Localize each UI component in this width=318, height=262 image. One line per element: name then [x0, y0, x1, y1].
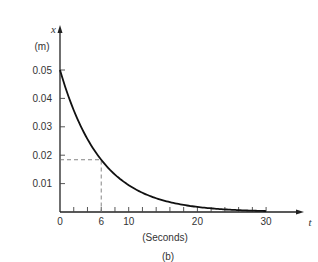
x-tick-label: 30 — [261, 216, 273, 227]
x-tick-label: 0 — [57, 216, 63, 227]
y-tick-label: 0.03 — [33, 121, 53, 132]
y-tick-label: 0.05 — [33, 65, 53, 76]
plot-area: 0.010.020.030.040.0506102030x(m)t(Second… — [33, 23, 313, 262]
y-tick-label: 0.01 — [33, 178, 53, 189]
y-tick-label: 0.02 — [33, 150, 53, 161]
y-axis-label: x — [50, 23, 56, 35]
x-axis-arrow-icon — [296, 210, 304, 215]
decay-curve — [60, 70, 266, 211]
y-axis-arrow-icon — [58, 25, 63, 33]
dashed-guide-line — [60, 160, 101, 212]
x-axis-label: t — [308, 216, 312, 228]
chart-svg: 0.010.020.030.040.0506102030x(m)t(Second… — [0, 0, 318, 262]
figure-caption: (b) — [162, 251, 174, 262]
x-axis-unit: (Seconds) — [142, 232, 188, 243]
x-tick-label: 20 — [192, 216, 204, 227]
y-tick-label: 0.04 — [33, 93, 53, 104]
x-tick-label: 10 — [123, 216, 135, 227]
y-axis-unit: (m) — [35, 41, 50, 52]
x-tick-label: 6 — [98, 216, 104, 227]
